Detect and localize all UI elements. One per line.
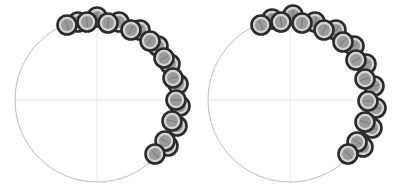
- marker: [78, 13, 97, 32]
- marker: [293, 14, 312, 33]
- marker: [339, 145, 358, 164]
- marker: [146, 145, 165, 164]
- marker: [58, 16, 77, 35]
- marker: [334, 33, 353, 52]
- marker: [155, 49, 174, 68]
- marker: [99, 14, 118, 33]
- marker: [272, 13, 291, 32]
- marker: [356, 113, 375, 132]
- polar-marker-charts: [0, 0, 393, 187]
- polar-chart-1: [15, 8, 190, 183]
- polar-chart-2: [208, 6, 386, 183]
- marker: [347, 51, 366, 70]
- marker: [141, 32, 160, 51]
- marker: [252, 16, 271, 35]
- marker: [356, 70, 375, 89]
- marker: [164, 69, 183, 88]
- marker: [122, 21, 141, 40]
- marker: [359, 92, 378, 111]
- marker: [315, 21, 334, 40]
- front-marker-series: [252, 13, 378, 164]
- marker: [167, 91, 186, 110]
- front-marker-series: [58, 13, 186, 164]
- marker: [163, 112, 182, 131]
